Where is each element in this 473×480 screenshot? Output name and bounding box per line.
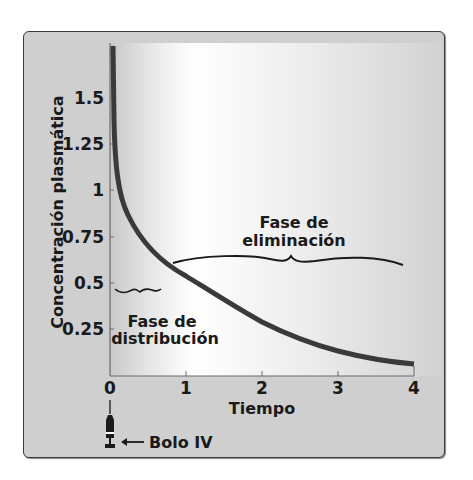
x-tick-label: 0 [104, 378, 116, 398]
elimination-label-line2: eliminación [242, 231, 346, 250]
x-tick-label: 2 [256, 378, 268, 398]
x-tick-label: 1 [180, 378, 192, 398]
x-tick-label: 3 [332, 378, 344, 398]
syringe-icon [105, 400, 115, 448]
y-tick-label: 1.5 [74, 88, 104, 108]
y-tick-label: 0.75 [62, 227, 104, 247]
y-tick-label: 0.5 [74, 273, 104, 293]
y-tick-label: 1.25 [62, 134, 104, 154]
y-tick-label: 0.25 [62, 319, 104, 339]
chart-svg: 1.5 1.25 1 0.75 0.5 0.25 0 1 2 3 4 Conce… [0, 0, 473, 480]
y-tick-label: 1 [92, 180, 104, 200]
elimination-label-line1: Fase de [259, 213, 328, 232]
y-axis-title: Concentración plasmática [48, 95, 67, 328]
bolus-label: Bolo IV [149, 433, 213, 452]
x-axis-title: Tiempo [229, 399, 295, 418]
x-tick-label: 4 [408, 378, 420, 398]
arrow-left-icon [121, 438, 144, 446]
distribution-label-line2: distribución [111, 329, 219, 348]
